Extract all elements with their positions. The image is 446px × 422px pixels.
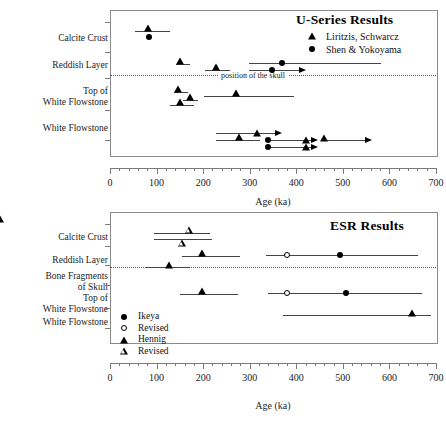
x-minor-tick-useries [166,168,167,171]
x-tick-label-useries: 400 [289,177,304,188]
x-major-tick-useries [436,168,437,174]
x-minor-tick-esr [212,363,213,366]
x-minor-tick-useries [315,168,316,171]
x-minor-tick-useries [352,168,353,171]
data-point-hennig [165,262,173,269]
data-point-liritzis [232,90,240,97]
x-tick-label-useries: 700 [429,177,444,188]
x-minor-tick-useries [222,168,223,171]
y-tick [105,308,110,309]
x-minor-tick-useries [334,168,335,171]
data-point-liritzis [320,135,328,142]
x-minor-tick-esr [147,363,148,366]
data-point-liritzis [253,130,261,137]
x-tick-label-useries: 300 [242,177,257,188]
data-point-liritzis [235,134,243,141]
x-minor-tick-esr [278,363,279,366]
arrow-head-icon [299,67,306,73]
x-minor-tick-esr [408,363,409,366]
filled-triangle-icon [120,336,128,343]
x-axis-title-useries: Age (ka) [255,196,290,207]
x-axis-title-esr: Age (ka) [255,400,290,411]
x-minor-tick-useries [185,168,186,171]
x-major-tick-esr [203,363,204,369]
x-major-tick-esr [436,363,437,369]
error-bar [180,294,238,295]
x-tick-label-esr: 500 [335,372,350,383]
x-minor-tick-useries [417,168,418,171]
data-point-shen [146,34,152,40]
x-tick-label-esr: 400 [289,372,304,383]
data-point-shen [279,60,285,66]
x-minor-tick-useries [231,168,232,171]
x-axis-esr [110,363,436,364]
x-tick-label-useries: 0 [108,177,113,188]
x-minor-tick-esr [119,363,120,366]
x-major-tick-useries [203,168,204,174]
x-minor-tick-useries [268,168,269,171]
data-point-liritzis [212,64,220,71]
data-point-hennig [198,250,206,257]
x-minor-tick-useries [278,168,279,171]
legend-label: Liritzis, Schwarcz [326,30,399,43]
x-minor-tick-esr [194,363,195,366]
y-tick [105,78,110,79]
data-point-liritzis [174,86,182,93]
arrow-shaft [216,133,275,134]
x-tick-label-useries: 200 [196,177,211,188]
ylabel-esr-calcite-crust: Calcite Crust [58,232,108,243]
x-major-tick-useries [343,168,344,174]
panel-title-useries: U-Series Results [296,12,393,28]
filled-circle-icon [121,314,127,320]
x-tick-label-esr: 600 [382,372,397,383]
data-point-revised-triangle [185,227,193,234]
x-axis-useries [110,168,436,169]
x-minor-tick-useries [399,168,400,171]
x-minor-tick-useries [361,168,362,171]
error-bar [249,63,381,64]
y-tick [105,52,110,53]
y-tick [105,265,110,266]
data-point-revised-circle [284,290,290,296]
x-minor-tick-esr [427,363,428,366]
data-point-ikeya [337,252,343,258]
data-point-hennig [408,310,416,317]
x-minor-tick-esr [315,363,316,366]
x-minor-tick-esr [334,363,335,366]
x-minor-tick-esr [380,363,381,366]
x-major-tick-esr [343,363,344,369]
data-point-ikeya [343,290,349,296]
x-tick-label-useries: 500 [335,177,350,188]
y-tick [105,246,110,247]
data-point-liritzis [144,25,152,32]
data-point-shen [265,144,271,150]
open-triangle-icon [120,348,128,355]
ylabel-useries-calcite-crust: Calcite Crust [58,33,108,44]
x-minor-tick-useries [129,168,130,171]
arrow-head-icon [311,137,318,143]
panel-useries: U-Series Results Liritzis, Schwarcz Shen… [0,0,446,211]
x-major-tick-useries [110,168,111,174]
x-tick-label-esr: 100 [149,372,164,383]
data-point-shen [265,137,271,143]
error-bar [154,233,210,234]
x-minor-tick-esr [399,363,400,366]
data-point-liritzis [176,99,184,106]
data-point-liritzis [186,94,194,101]
x-minor-tick-esr [231,363,232,366]
x-minor-tick-esr [175,363,176,366]
ylabel-useries-reddish-layer: Reddish Layer [52,60,108,71]
x-minor-tick-useries [147,168,148,171]
x-minor-tick-esr [240,363,241,366]
filled-circle-icon [309,46,315,52]
x-minor-tick-useries [427,168,428,171]
error-bar [204,96,294,97]
x-minor-tick-esr [371,363,372,366]
x-tick-label-esr: 300 [242,372,257,383]
x-minor-tick-useries [138,168,139,171]
x-minor-tick-esr [185,363,186,366]
arrow-shaft [324,140,365,141]
skull-position-label: position of the skull [218,71,288,80]
x-minor-tick-esr [129,363,130,366]
data-point-liritzis [176,58,184,65]
